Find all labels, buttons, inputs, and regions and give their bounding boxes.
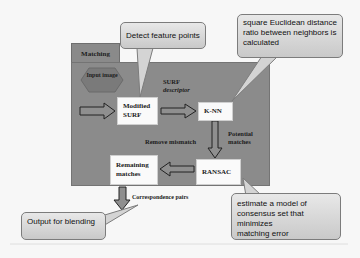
- correspondence-pairs-label: Correspondence pairs: [132, 193, 188, 201]
- callout-detect-text: Detect feature points: [126, 31, 200, 41]
- arrow-surf-to-knn: [161, 104, 196, 118]
- modified-surf-node: Modified SURF: [117, 97, 158, 125]
- callout-tail-detect: [137, 48, 153, 97]
- potential-line2: matches: [228, 138, 253, 146]
- callout-detect-feature-points: Detect feature points: [120, 22, 206, 49]
- ransac-note-line3: matching error: [237, 229, 335, 239]
- ransac-note-line1: estimate a model of: [237, 199, 335, 209]
- remove-mismatch-label: Remove mismatch: [145, 138, 196, 146]
- knn-note-line3: calculated: [243, 38, 337, 48]
- modified-surf-line1: Modified: [123, 102, 150, 111]
- knn-note-line1: square Euclidean distance: [243, 18, 337, 28]
- callout-ransac-note: estimate a model of consensus set that m…: [231, 193, 341, 240]
- callout-tail-knn: [232, 56, 278, 101]
- remaining-matches-node: Remaining matches: [110, 155, 158, 185]
- ransac-note-line2: consensus set that minimizes: [237, 209, 335, 229]
- ransac-text: RANSAC: [202, 168, 231, 177]
- callout-knn-note: square Euclidean distance ratio between …: [237, 14, 343, 58]
- arrow-input-to-surf: [80, 103, 115, 119]
- arrow-ransac-to-remaining: [160, 162, 194, 176]
- knn-text: K-NN: [204, 107, 222, 116]
- surf-descriptor-line2: descriptor: [163, 86, 190, 94]
- callout-output-for-blending: Output for blending: [21, 212, 106, 240]
- input-image-label: Input image: [86, 72, 118, 79]
- potential-matches-label: Potential matches: [228, 130, 253, 146]
- remaining-line2: matches: [116, 170, 141, 179]
- ransac-node: RANSAC: [196, 159, 241, 185]
- surf-descriptor-label: SURF descriptor: [163, 78, 190, 94]
- arrow-remaining-to-output: [114, 187, 130, 210]
- callout-output-text: Output for blending: [27, 217, 95, 226]
- potential-line1: Potential: [228, 130, 253, 138]
- modified-surf-line2: SURF: [123, 111, 141, 120]
- surf-descriptor-line1: SURF: [163, 78, 190, 86]
- knn-note-line2: ratio between neighbors is: [243, 28, 337, 38]
- remaining-line1: Remaining: [116, 161, 149, 170]
- knn-node: K-NN: [198, 102, 233, 121]
- arrow-knn-to-ransac: [208, 121, 222, 158]
- input-image-text: Input image: [86, 72, 117, 78]
